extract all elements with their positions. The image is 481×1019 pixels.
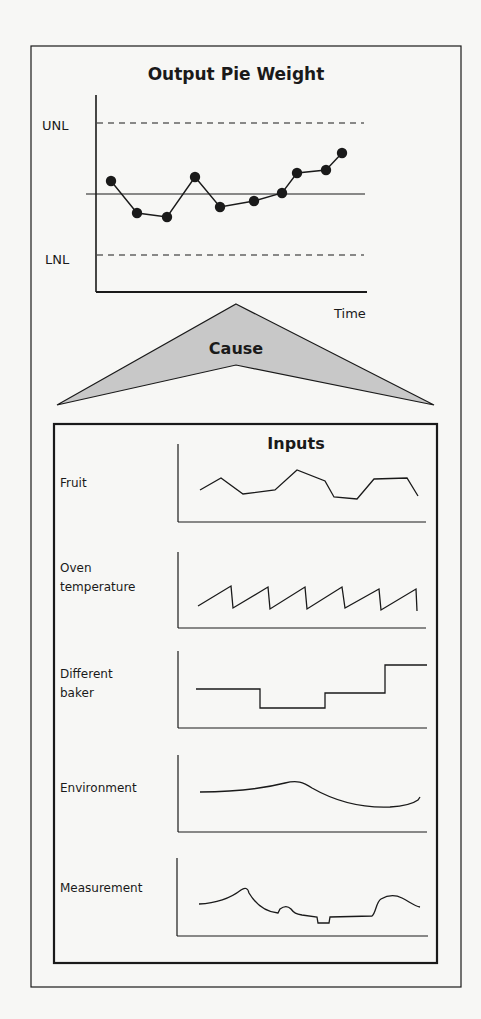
data-point [321, 165, 331, 175]
data-point [277, 188, 287, 198]
data-point [190, 172, 200, 182]
input-label-line2: temperature [60, 580, 135, 594]
oven-series-line [198, 586, 417, 611]
control-chart: UNL LNL Time [42, 95, 367, 321]
data-point [337, 148, 347, 158]
data-point [292, 168, 302, 178]
data-point [132, 208, 142, 218]
input-row-environment: Environment [60, 755, 427, 832]
upper-limit-label: UNL [42, 118, 69, 133]
input-label: Oven [60, 561, 92, 575]
data-point [162, 212, 172, 222]
weight-series-markers [106, 148, 347, 222]
diagram-canvas: Output Pie Weight UNL LNL Time Cause Inp… [0, 0, 481, 1019]
lower-limit-label: LNL [45, 252, 70, 267]
baker-series-line [196, 665, 427, 708]
measurement-series-line [199, 888, 420, 923]
fruit-series-line [200, 470, 418, 499]
data-point [249, 196, 259, 206]
input-row-measurement: Measurement [60, 858, 428, 936]
chart-title: Output Pie Weight [148, 64, 325, 84]
data-point [215, 202, 225, 212]
environment-series-line [200, 782, 420, 808]
x-axis-label: Time [333, 306, 366, 321]
inputs-title: Inputs [267, 434, 324, 453]
input-label: Different [60, 667, 113, 681]
input-label: Measurement [60, 881, 143, 895]
input-row-fruit: Fruit [60, 444, 426, 522]
weight-series-line [111, 153, 342, 217]
input-row-different-baker: Different baker [60, 651, 427, 728]
input-row-oven-temperature: Oven temperature [60, 552, 426, 628]
input-label: Environment [60, 781, 137, 795]
data-point [106, 176, 116, 186]
input-label-line2: baker [60, 686, 94, 700]
cause-label: Cause [209, 339, 263, 358]
input-label: Fruit [60, 476, 87, 490]
